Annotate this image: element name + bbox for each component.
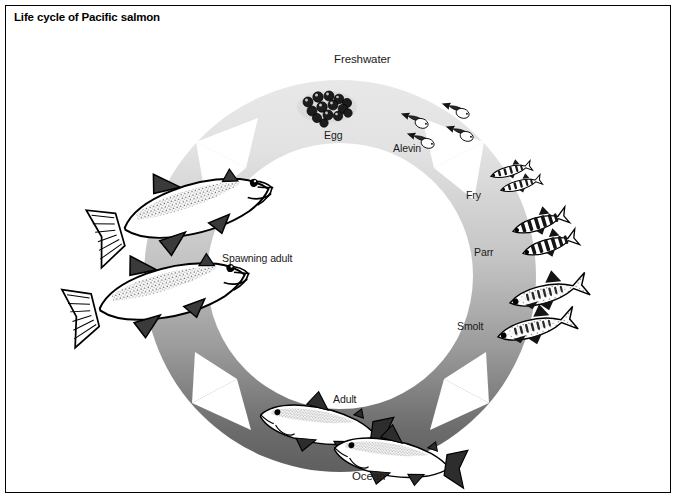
environment-label-ocean: Ocean xyxy=(352,470,385,482)
environment-label-freshwater: Freshwater xyxy=(334,53,391,65)
stage-label-parr: Parr xyxy=(474,246,493,258)
stage-label-alevin: Alevin xyxy=(393,142,421,154)
salmon-life-cycle-diagram xyxy=(0,0,678,499)
stage-label-spawning-adult: Spawning adult xyxy=(222,252,292,264)
stage-label-egg: Egg xyxy=(324,129,342,141)
figure-page: Life cycle of Pacific salmon xyxy=(0,0,678,499)
stage-label-adult: Adult xyxy=(333,393,356,405)
stage-label-smolt: Smolt xyxy=(457,320,483,332)
stage-label-fry: Fry xyxy=(466,189,481,201)
